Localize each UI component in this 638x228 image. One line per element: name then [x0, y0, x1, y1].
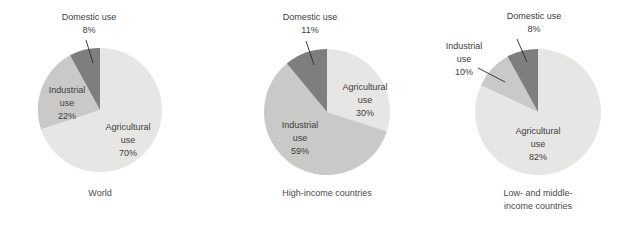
- callout-line: Domestic use: [283, 12, 338, 22]
- chart-caption-world: World: [88, 188, 111, 198]
- callout-line: 10%: [455, 67, 473, 77]
- chart-caption-high-income: High-income countries: [282, 188, 372, 198]
- pie-chart-high-income: Agricultural use 30% Industrial use 59% …: [264, 12, 390, 198]
- label-line: Industrial: [49, 85, 86, 95]
- callout-line: 8%: [82, 25, 95, 35]
- label-line: 70%: [119, 148, 137, 158]
- pie-chart-low-middle-income: Agricultural use 82% Domestic use 8% Ind…: [446, 11, 601, 211]
- caption-line: Low- and middle-: [503, 188, 572, 198]
- caption-line: High-income countries: [282, 188, 372, 198]
- label-line: Agricultural: [342, 82, 387, 92]
- label-line: use: [60, 98, 75, 108]
- label-line: 59%: [291, 146, 309, 156]
- label-line: Industrial: [282, 120, 319, 130]
- caption-line: World: [88, 188, 111, 198]
- label-line: Agricultural: [105, 122, 150, 132]
- label-line: 30%: [356, 108, 374, 118]
- callout-line: use: [457, 54, 472, 64]
- label-line: Agricultural: [515, 126, 560, 136]
- caption-line: income countries: [504, 201, 573, 211]
- label-line: use: [121, 135, 136, 145]
- callout-line: Domestic use: [507, 11, 562, 21]
- callout-line: Domestic use: [62, 12, 117, 22]
- label-line: use: [293, 133, 308, 143]
- chart-caption-low-middle-income: Low- and middle- income countries: [503, 188, 572, 211]
- callout-line: Industrial: [446, 41, 483, 51]
- label-line: use: [531, 139, 546, 149]
- label-line: 82%: [529, 152, 547, 162]
- water-use-pie-chart-figure: Agricultural use 70% Industrial use 22% …: [0, 0, 638, 228]
- callout-line: 11%: [301, 25, 318, 35]
- callout-line: 8%: [527, 24, 540, 34]
- label-line: 22%: [58, 111, 76, 121]
- pie-chart-world: Agricultural use 70% Industrial use 22% …: [38, 12, 162, 198]
- label-line: use: [358, 95, 373, 105]
